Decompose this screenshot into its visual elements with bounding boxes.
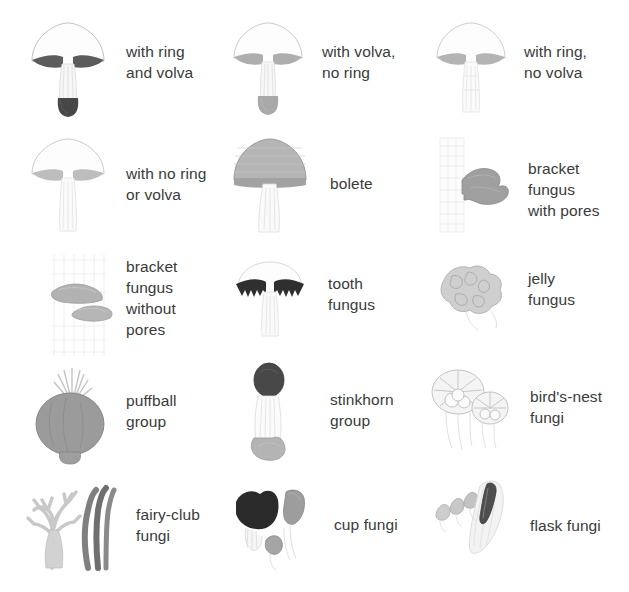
cell-label: cup fungi <box>334 514 398 535</box>
cell-jelly-fungus: jelly fungus <box>426 252 575 358</box>
cell-label: tooth fungus <box>328 273 375 315</box>
birds-nest-fungi-icon <box>426 362 522 466</box>
cell-label: puffball group <box>126 390 177 432</box>
cell-with-ring-no-volva: with ring, no volva <box>426 14 587 122</box>
cell-label: bird's-nest fungi <box>530 386 602 428</box>
cell-label: fairy-club fungi <box>136 504 200 546</box>
mushroom-ring-no-volva-icon <box>426 14 516 122</box>
flask-fungi-icon <box>426 472 522 576</box>
cell-label: with volva, no ring <box>322 41 395 83</box>
cell-stinkhorn-group: stinkhorn group <box>222 362 394 466</box>
cell-puffball-group: puffball group <box>18 362 177 466</box>
cell-label: flask fungi <box>530 515 601 536</box>
cell-bolete: bolete <box>222 132 373 238</box>
cell-label: with ring and volva <box>126 41 193 83</box>
cell-bracket-fungus-with-pores: bracket fungus with pores <box>426 132 600 238</box>
mushroom-volva-no-ring-icon <box>222 14 314 122</box>
cell-bracket-fungus-without-pores: bracket fungus without pores <box>18 252 178 358</box>
mushroom-ring-volva-icon <box>18 14 118 122</box>
bolete-icon <box>222 132 318 238</box>
cell-label: bracket fungus with pores <box>528 158 600 221</box>
cell-label: stinkhorn group <box>330 389 394 431</box>
bracket-fungus-pores-icon <box>426 132 520 238</box>
tooth-fungus-icon <box>222 252 318 358</box>
cell-tooth-fungus: tooth fungus <box>222 252 375 358</box>
cell-label: jelly fungus <box>528 268 575 310</box>
cell-birds-nest-fungi: bird's-nest fungi <box>426 362 602 466</box>
mushroom-plain-icon <box>18 132 118 238</box>
cell-fairy-club-fungi: fairy-club fungi <box>18 472 200 576</box>
cup-fungi-icon <box>222 472 322 576</box>
cell-with-ring-and-volva: with ring and volva <box>18 14 193 122</box>
cell-label: bolete <box>330 173 373 194</box>
fairy-club-icon <box>18 472 126 576</box>
puffball-icon <box>18 362 118 466</box>
cell-with-volva-no-ring: with volva, no ring <box>222 14 395 122</box>
cell-cup-fungi: cup fungi <box>222 472 398 576</box>
fungi-type-grid: with ring and volva with volva, no ring <box>0 0 629 592</box>
cell-label: with no ring or volva <box>126 163 206 205</box>
cell-label: bracket fungus without pores <box>126 256 178 340</box>
jelly-fungus-icon <box>426 252 518 358</box>
cell-flask-fungi: flask fungi <box>426 472 601 576</box>
cell-with-no-ring-or-volva: with no ring or volva <box>18 132 206 238</box>
stinkhorn-icon <box>222 362 318 466</box>
bracket-fungus-no-pores-icon <box>18 252 118 358</box>
cell-label: with ring, no volva <box>524 41 587 83</box>
